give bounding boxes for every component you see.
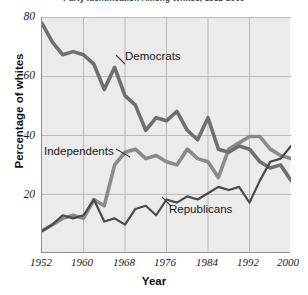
x-tick-1984: 1984 xyxy=(185,256,229,268)
x-tick-1952: 1952 xyxy=(19,256,63,268)
y-tick-20: 20 xyxy=(9,189,35,200)
x-tick-1992: 1992 xyxy=(226,256,270,268)
y-axis-label: Percentage of whites xyxy=(13,46,25,176)
x-tick-1960: 1960 xyxy=(60,256,104,268)
annotation-democrats: Democrats xyxy=(125,50,181,62)
x-tick-1968: 1968 xyxy=(102,256,146,268)
annotation-independents: Independents xyxy=(44,145,114,157)
x-tick-1976: 1976 xyxy=(143,256,187,268)
chart-figure: Party Identification Among Whites, 1952-… xyxy=(0,0,308,295)
annotation-republicans: Republicans xyxy=(169,203,232,215)
chart-title-strip: Party Identification Among Whites, 1952-… xyxy=(0,0,308,7)
annotation-leader-lines xyxy=(116,55,171,206)
chart-title: Party Identification Among Whites, 1952-… xyxy=(0,0,308,3)
leader-line-democrats xyxy=(116,55,125,64)
x-tick-2000: 2000 xyxy=(266,256,308,268)
y-tick-80: 80 xyxy=(9,11,35,22)
x-axis-label: Year xyxy=(0,275,308,287)
